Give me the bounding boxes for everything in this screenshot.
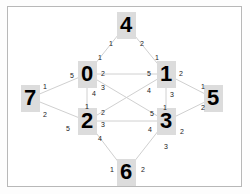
edge-group (30, 25, 213, 172)
edge-weight-label: 2 (101, 70, 105, 77)
edge-weight-label: 2 (179, 70, 183, 77)
graph-node-6[interactable]: 6 (117, 159, 136, 186)
edge-weight-label: 1 (85, 103, 89, 110)
edge-weight-label: 5 (66, 125, 70, 132)
edge-weight-label: 2 (101, 109, 105, 116)
edge-weight-label: 2 (43, 111, 47, 118)
edge-weight-label: 2 (201, 104, 205, 111)
edge-weight-label: 3 (170, 91, 174, 98)
graph-node-2[interactable]: 2 (78, 108, 97, 135)
edge-weight-label: 3 (101, 84, 105, 91)
graph-node-1[interactable]: 1 (157, 61, 176, 88)
edge-weight-label: 2 (140, 40, 144, 47)
edge-weight-label: 4 (98, 135, 102, 142)
edge-weight-label: 3 (101, 121, 105, 128)
edge-weight-label: 4 (92, 90, 96, 97)
edge-weight-label: 1 (98, 54, 102, 61)
edge-weight-label: 2 (141, 166, 145, 173)
edge-weight-label: 1 (43, 83, 47, 90)
edge-weight-label: 5 (70, 72, 74, 79)
edge-weight-label: 3 (164, 143, 168, 150)
edge-weight-label: 1 (163, 104, 167, 111)
graph-node-4[interactable]: 4 (117, 12, 136, 39)
graph-node-5[interactable]: 5 (204, 85, 223, 112)
edge-weight-label: 1 (155, 54, 159, 61)
graph-diagram-screenshot: 01234567 1211523454231212152341542312 (0, 0, 250, 194)
edge-weight-label: 2 (180, 128, 184, 135)
edge-weight-label: 5 (150, 110, 154, 117)
edge-weight-label: 1 (109, 40, 113, 47)
edge-weight-label: 4 (148, 126, 152, 133)
edge-weight-label: 1 (201, 83, 205, 90)
graph-node-0[interactable]: 0 (78, 61, 97, 88)
edge-weight-label: 5 (147, 70, 151, 77)
edge-weight-label: 1 (110, 166, 114, 173)
graph-node-3[interactable]: 3 (157, 108, 176, 135)
edge-weight-label: 4 (147, 87, 151, 94)
graph-node-7[interactable]: 7 (21, 85, 40, 112)
